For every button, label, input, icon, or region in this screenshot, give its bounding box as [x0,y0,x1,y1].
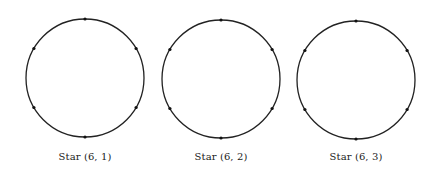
vertex-dot [32,47,35,50]
vertex-dot [83,17,86,20]
figure-star-6-1: Star (6, 1) [12,0,158,176]
vertex-dot [354,137,357,140]
vertex-dot [134,106,137,109]
figure-star-6-3: Star (6, 3) [283,0,429,176]
vertex-dot [303,49,306,52]
vertex-dot [270,48,273,51]
figure-caption: Star (6, 3) [283,151,429,162]
circle-diagram-icon [283,0,429,150]
vertex-dot [219,136,222,139]
figure-caption: Star (6, 2) [148,151,294,162]
vertex-dot [270,107,273,110]
vertex-dot [303,108,306,111]
figure-star-6-2: Star (6, 2) [148,0,294,176]
vertex-dot [134,47,137,50]
figure-caption: Star (6, 1) [12,151,158,162]
circle-diagram-icon [148,0,294,150]
vertex-dot [405,108,408,111]
vertex-dot [168,48,171,51]
circle-diagram-icon [12,0,158,150]
vertex-dot [32,106,35,109]
vertex-dot [405,49,408,52]
vertex-dot [83,135,86,138]
vertex-dot [354,19,357,22]
vertex-dot [168,107,171,110]
vertex-dot [219,18,222,21]
